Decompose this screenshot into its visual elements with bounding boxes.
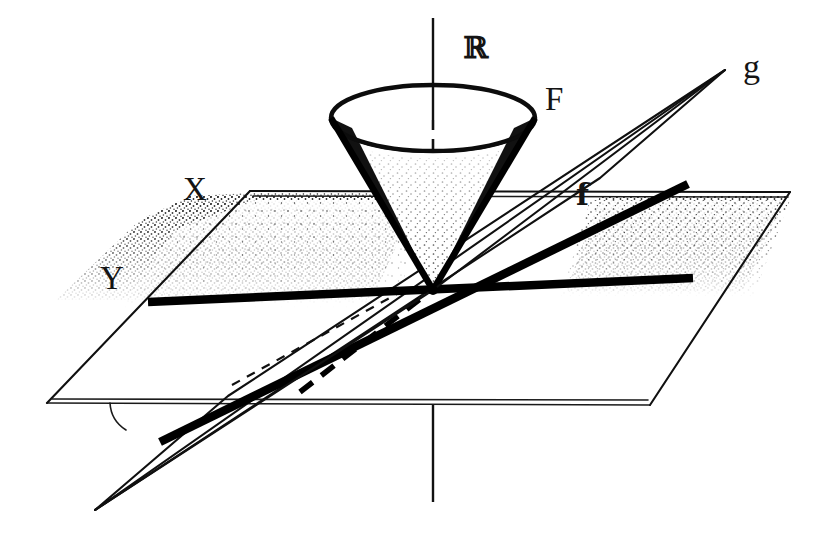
label-map-g: g [743, 48, 760, 85]
plane-edge-bottom-inner [52, 399, 648, 400]
figure-canvas: ℝ F X Y f g [0, 0, 834, 538]
plane-edge-top-inner [253, 196, 788, 197]
label-axis-R: ℝ [463, 30, 489, 65]
label-plane-Y: Y [100, 260, 124, 296]
origin-point [428, 285, 438, 295]
label-map-f: f [576, 177, 591, 212]
geometry-diagram: ℝ F X Y f g [0, 0, 834, 538]
label-plane-X: X [183, 171, 207, 207]
label-cone-F: F [545, 81, 563, 117]
plane-edge-top [250, 191, 790, 192]
